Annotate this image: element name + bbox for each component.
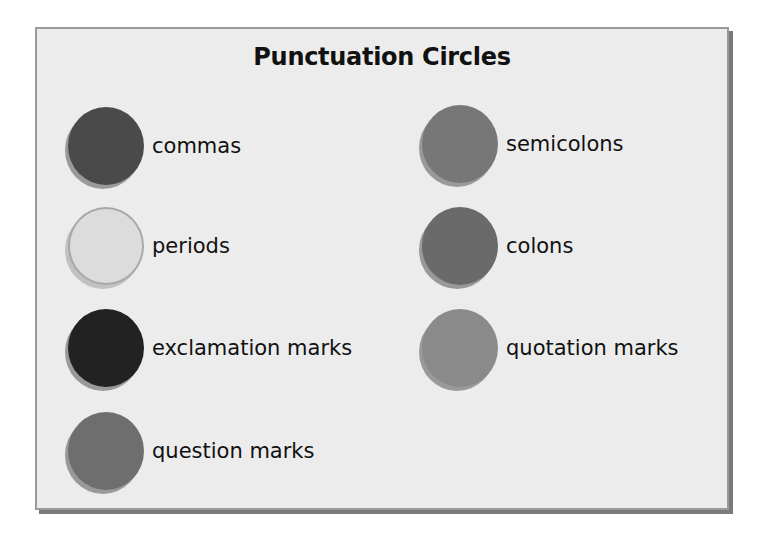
semicolons-circle-icon [422, 105, 498, 183]
legend-item-commas: commas [68, 106, 241, 186]
legend-item-colons: colons [422, 206, 573, 286]
legend-item-periods: periods [68, 206, 230, 286]
legend-item-quotation-marks: quotation marks [422, 308, 679, 388]
legend-label: commas [152, 134, 241, 158]
legend-label: exclamation marks [152, 336, 352, 360]
diagram-title: Punctuation Circles [37, 43, 727, 71]
legend-label: periods [152, 234, 230, 258]
question-marks-circle-icon [68, 412, 144, 490]
legend-label: quotation marks [506, 336, 679, 360]
exclamation-marks-circle-icon [68, 309, 144, 387]
quotation-marks-circle-icon [422, 309, 498, 387]
commas-circle-icon [68, 107, 144, 185]
periods-circle-icon [68, 207, 144, 285]
legend-item-semicolons: semicolons [422, 104, 623, 184]
legend-item-exclamation-marks: exclamation marks [68, 308, 352, 388]
legend-label: question marks [152, 439, 314, 463]
legend-item-question-marks: question marks [68, 411, 314, 491]
colons-circle-icon [422, 207, 498, 285]
legend-panel: Punctuation Circles commas semicolons pe… [35, 27, 729, 510]
legend-label: colons [506, 234, 573, 258]
legend-label: semicolons [506, 132, 623, 156]
